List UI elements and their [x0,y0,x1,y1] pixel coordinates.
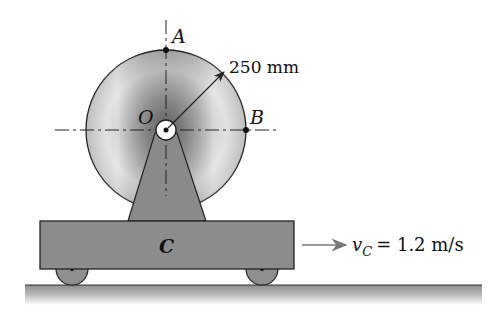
diagram-canvas: A B O 250 mm C vC= 1.2 m/s [0,0,501,316]
point-b-marker [243,127,249,133]
label-radius: 250 mm [229,57,299,77]
label-a: A [170,25,186,47]
point-a-marker [163,47,169,53]
label-o: O [138,106,154,128]
label-cart: C [159,235,174,257]
ground [25,285,482,305]
label-b: B [249,106,264,128]
velocity-label: vC= 1.2 m/s [352,234,464,259]
